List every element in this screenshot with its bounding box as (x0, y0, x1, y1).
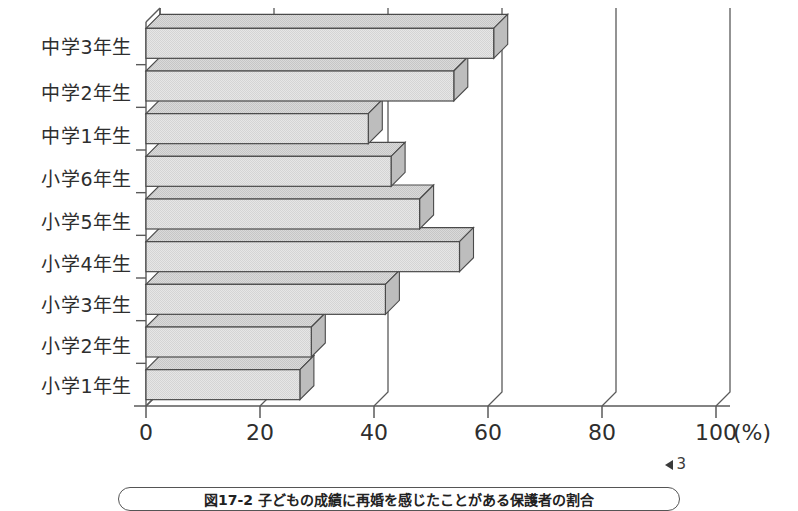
x-axis-unit: (%) (733, 420, 771, 445)
page-number-marker: 3 (665, 455, 686, 473)
x-tick-40: 40 (360, 420, 388, 445)
x-tick-100: 100 (695, 420, 737, 445)
page-number: 3 (676, 455, 686, 473)
x-tick-60: 60 (474, 420, 502, 445)
figure-caption: 図17-2 子どもの成績に再婚を感じたことがある保護者の割合 (119, 489, 679, 509)
chart-plot-area (0, 0, 798, 430)
x-tick-80: 80 (588, 420, 616, 445)
figure-caption-band: 図17-2 子どもの成績に再婚を感じたことがある保護者の割合 (118, 487, 680, 511)
x-tick-0: 0 (139, 420, 153, 445)
left-triangle-icon (665, 460, 673, 470)
x-tick-20: 20 (246, 420, 274, 445)
chart-bars (146, 14, 508, 399)
x-axis-tick-labels: 0 20 40 60 80 100 (%) (0, 420, 798, 460)
